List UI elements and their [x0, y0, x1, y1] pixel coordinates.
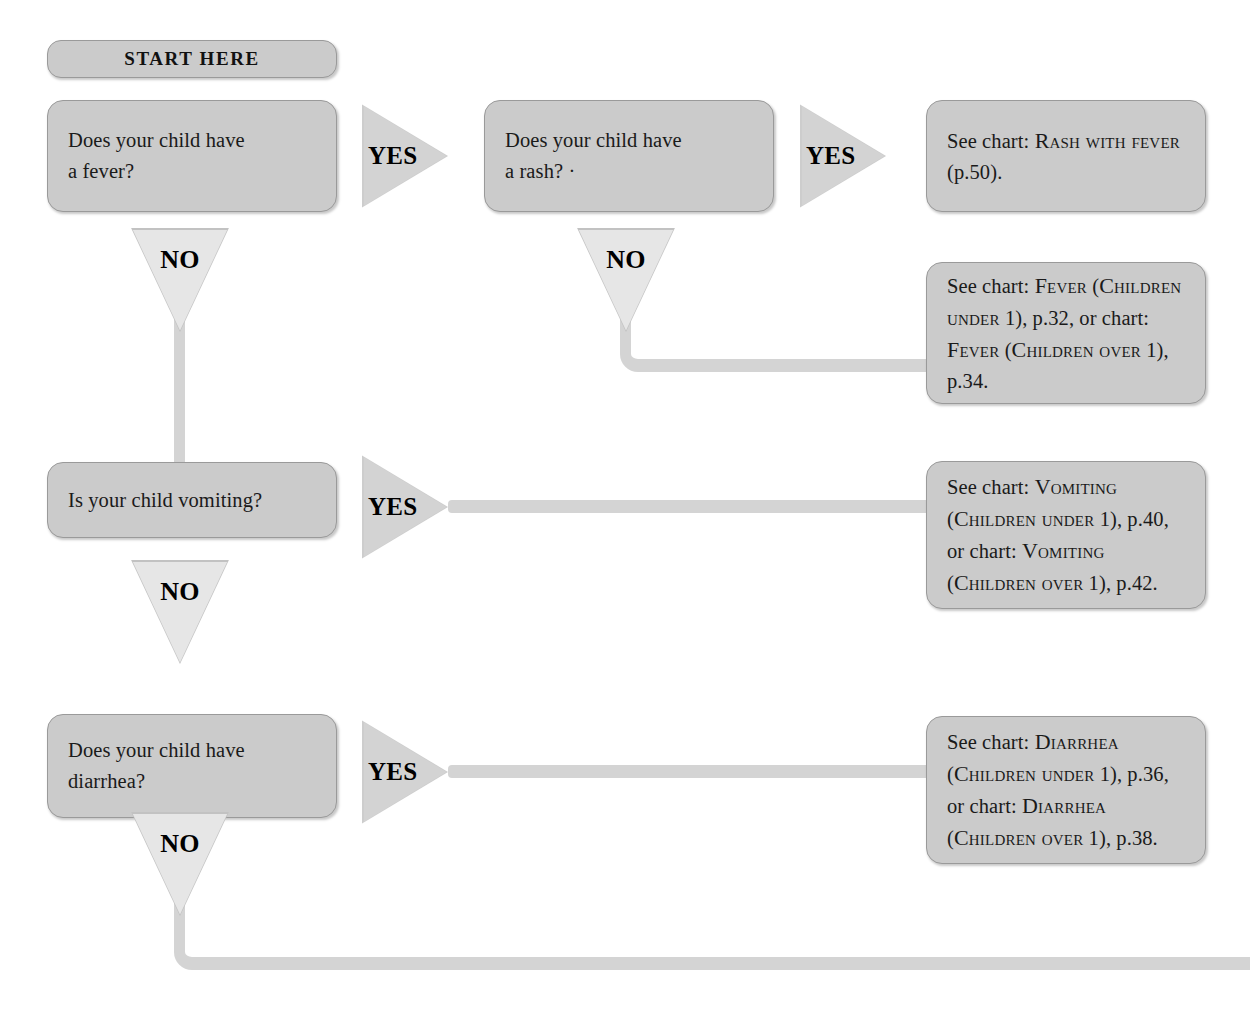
no-arrow-vomiting-label: NO: [128, 577, 232, 607]
question-box-fever[interactable]: Does your child have a fever?: [47, 100, 337, 212]
result-box-diarrhea[interactable]: See chart: Diarrhea (Children under 1), …: [926, 716, 1206, 864]
no-arrow-fever-label: NO: [128, 245, 232, 275]
result-diarrhea-tail: 1), p.38.: [1083, 827, 1157, 849]
result-diarrhea-ref4: Children over: [954, 825, 1083, 850]
no-arrow-rash[interactable]: NO: [574, 228, 678, 332]
yes-arrow-vomiting[interactable]: YES: [362, 451, 448, 563]
result-diarrhea-ref2: Children under: [954, 761, 1094, 786]
question-diarrhea-line2: diarrhea?: [68, 766, 245, 797]
no-arrow-fever[interactable]: NO: [128, 228, 232, 332]
result-box-vomiting[interactable]: See chart: Vomiting (Children under 1), …: [926, 461, 1206, 609]
no-arrow-diarrhea-label: NO: [128, 829, 232, 859]
question-rash-line1: Does your child have: [505, 125, 682, 156]
connector-diarrhea-yes-horizontal: [448, 765, 932, 778]
result-fever-ref3: Fever: [947, 337, 999, 362]
no-arrow-vomiting-shape: [128, 560, 232, 664]
question-fever-line2: a fever?: [68, 156, 245, 187]
flowchart-canvas: START HERE Does your child have a fever?…: [0, 0, 1250, 1022]
result-diarrhea-ref1: Diarrhea: [1035, 729, 1119, 754]
result-vomiting-mid1: (: [947, 508, 954, 530]
result-box-rash[interactable]: See chart: Rash with fever (p.50).: [926, 100, 1206, 212]
result-rash-prefix: See chart:: [947, 130, 1035, 152]
result-fever-text: See chart: Fever (Children under 1), p.3…: [927, 270, 1205, 397]
result-vomiting-ref4: Children over: [954, 570, 1083, 595]
result-vomiting-text: See chart: Vomiting (Children under 1), …: [927, 471, 1205, 599]
question-diarrhea-text: Does your child have diarrhea?: [48, 735, 265, 797]
result-vomiting-ref3: Vomiting: [1022, 538, 1104, 563]
result-fever-mid1: (: [1087, 275, 1099, 297]
no-arrow-diarrhea[interactable]: NO: [128, 812, 232, 916]
question-fever-text: Does your child have a fever?: [48, 125, 265, 187]
yes-arrow-rash[interactable]: YES: [800, 100, 886, 212]
result-rash-ref1: Rash with fever: [1035, 128, 1180, 153]
yes-arrow-rash-label: YES: [806, 142, 856, 170]
start-here-banner: START HERE: [47, 40, 337, 78]
result-fever-ref4: Children over: [1012, 337, 1141, 362]
result-vomiting-prefix: See chart:: [947, 476, 1035, 498]
result-fever-ref1: Fever: [1035, 273, 1087, 298]
result-diarrhea-prefix: See chart:: [947, 731, 1035, 753]
result-fever-mid2: 1), p.32, or chart:: [1000, 307, 1149, 329]
question-box-rash[interactable]: Does your child have a rash? ·: [484, 100, 774, 212]
question-vomiting-text: Is your child vomiting?: [48, 485, 282, 516]
result-vomiting-ref1: Vomiting: [1035, 474, 1117, 499]
question-vomiting-line1: Is your child vomiting?: [68, 485, 262, 516]
question-rash-text: Does your child have a rash? ·: [485, 125, 702, 187]
question-diarrhea-line1: Does your child have: [68, 735, 245, 766]
start-here-label: START HERE: [124, 48, 260, 70]
yes-arrow-fever[interactable]: YES: [362, 100, 448, 212]
no-arrow-rash-label: NO: [574, 245, 678, 275]
yes-arrow-vomiting-label: YES: [368, 493, 418, 521]
yes-arrow-diarrhea[interactable]: YES: [362, 716, 448, 828]
question-box-vomiting[interactable]: Is your child vomiting?: [47, 462, 337, 538]
no-arrow-fever-shape: [128, 228, 232, 332]
yes-arrow-fever-label: YES: [368, 142, 418, 170]
no-arrow-rash-shape: [574, 228, 678, 332]
result-diarrhea-mid3: (: [947, 827, 954, 849]
result-diarrhea-text: See chart: Diarrhea (Children under 1), …: [927, 726, 1205, 854]
connector-vomiting-yes-horizontal: [448, 500, 932, 513]
result-vomiting-tail: 1), p.42.: [1083, 572, 1157, 594]
question-box-diarrhea[interactable]: Does your child have diarrhea?: [47, 714, 337, 818]
no-arrow-diarrhea-shape: [128, 812, 232, 916]
result-diarrhea-ref3: Diarrhea: [1022, 793, 1106, 818]
result-fever-prefix: See chart:: [947, 275, 1035, 297]
question-fever-line1: Does your child have: [68, 125, 245, 156]
no-arrow-vomiting[interactable]: NO: [128, 560, 232, 664]
question-rash-line2: a rash? ·: [505, 156, 682, 187]
result-fever-mid3: (: [999, 339, 1011, 361]
result-rash-tail: (p.50).: [947, 161, 1002, 183]
result-vomiting-mid3: (: [947, 572, 954, 594]
result-diarrhea-mid1: (: [947, 763, 954, 785]
result-box-fever[interactable]: See chart: Fever (Children under 1), p.3…: [926, 262, 1206, 404]
connector-fever-no-vertical: [174, 316, 185, 472]
result-vomiting-ref2: Children under: [954, 506, 1094, 531]
result-rash-text: See chart: Rash with fever (p.50).: [927, 125, 1205, 188]
connector-diarrhea-no-elbow: [174, 880, 1250, 970]
yes-arrow-diarrhea-label: YES: [368, 758, 418, 786]
